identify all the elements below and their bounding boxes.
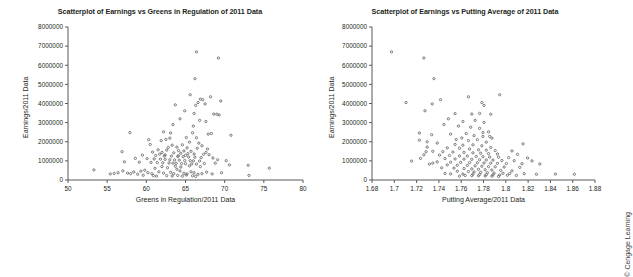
x-tick-label: 1.78 bbox=[477, 185, 490, 192]
y-axis-title-left: Earnings/2011 Data bbox=[22, 77, 29, 138]
copyright-credit: © Cengage Learning bbox=[624, 212, 631, 277]
y-tick-label: 5000000 bbox=[38, 81, 63, 88]
scatter-plot-left: 5055606570758001000000200000030000004000… bbox=[0, 0, 320, 218]
y-tick-label: 6000000 bbox=[38, 62, 63, 69]
x-tick-label: 70 bbox=[221, 185, 229, 192]
y-tick-label: 2000000 bbox=[342, 138, 367, 145]
y-tick-label: 3000000 bbox=[342, 119, 367, 126]
y-tick-label: 8000000 bbox=[38, 23, 63, 30]
y-axis-title-right: Earnings/2011 Data bbox=[328, 77, 335, 138]
y-tick-label: 1000000 bbox=[38, 157, 63, 164]
x-tick-label: 1.84 bbox=[544, 185, 557, 192]
y-tick-label: 0 bbox=[363, 176, 367, 183]
data-points bbox=[93, 51, 271, 178]
x-tick-label: 1.7 bbox=[390, 185, 399, 192]
x-tick-label: 65 bbox=[182, 185, 190, 192]
x-tick-label: 50 bbox=[64, 185, 72, 192]
x-tick-label: 55 bbox=[104, 185, 112, 192]
y-tick-label: 7000000 bbox=[38, 42, 63, 49]
y-tick-label: 4000000 bbox=[342, 100, 367, 107]
x-tick-label: 1.82 bbox=[522, 185, 535, 192]
scatter-plot-right: 1.681.71.721.741.761.781.81.821.841.861.… bbox=[320, 0, 610, 218]
x-axis-title-left: Greens in Regulation/2011 Data bbox=[0, 196, 371, 203]
y-tick-label: 0 bbox=[59, 176, 63, 183]
x-tick-label: 1.8 bbox=[501, 185, 510, 192]
y-tick-label: 7000000 bbox=[342, 42, 367, 49]
y-tick-label: 2000000 bbox=[38, 138, 63, 145]
x-tick-label: 80 bbox=[299, 185, 307, 192]
y-tick-label: 3000000 bbox=[38, 119, 63, 126]
y-tick-label: 5000000 bbox=[342, 81, 367, 88]
chart-panel-greens-in-regulation: Scatterplot of Earnings vs Greens in Reg… bbox=[0, 0, 320, 218]
x-tick-label: 1.68 bbox=[366, 185, 379, 192]
y-tick-label: 1000000 bbox=[342, 157, 367, 164]
x-tick-label: 60 bbox=[143, 185, 151, 192]
y-tick-label: 8000000 bbox=[342, 23, 367, 30]
y-tick-label: 6000000 bbox=[342, 62, 367, 69]
x-axis-title-right: Putting Average/2011 Data bbox=[320, 196, 633, 203]
x-tick-label: 1.88 bbox=[589, 185, 602, 192]
x-tick-label: 75 bbox=[260, 185, 268, 192]
chart-panel-putting-average: Scatterplot of Earnings vs Putting Avera… bbox=[320, 0, 610, 218]
x-tick-label: 1.72 bbox=[410, 185, 423, 192]
x-tick-label: 1.76 bbox=[455, 185, 468, 192]
data-points bbox=[390, 51, 575, 178]
x-tick-label: 1.74 bbox=[433, 185, 446, 192]
y-tick-label: 4000000 bbox=[38, 100, 63, 107]
x-tick-label: 1.86 bbox=[566, 185, 579, 192]
